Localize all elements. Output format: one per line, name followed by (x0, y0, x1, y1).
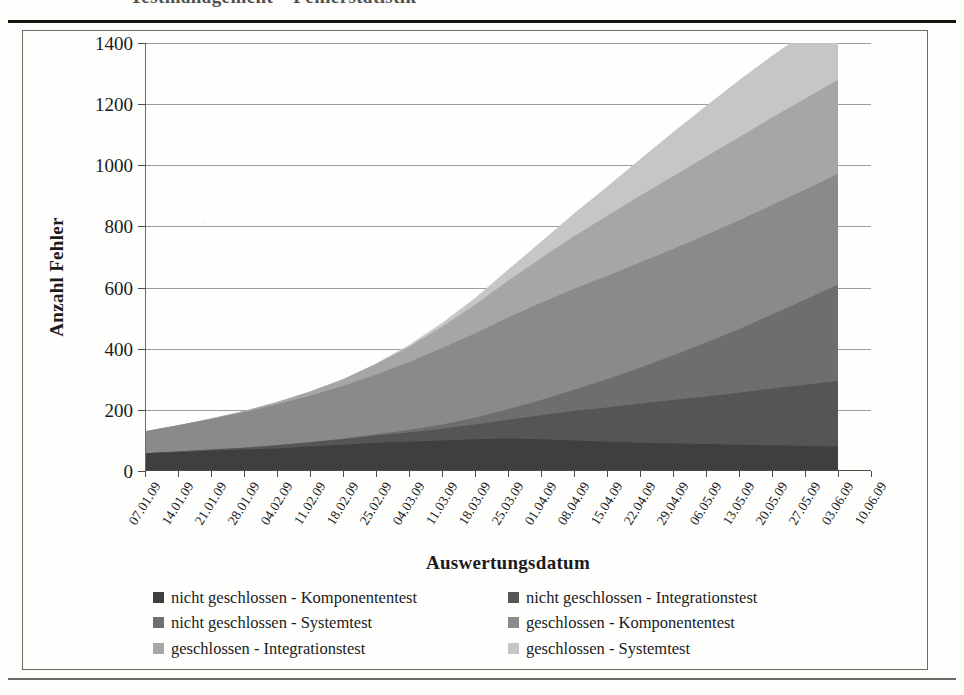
chart-container: Anzahl Fehler 0200400600800100012001400 … (23, 31, 929, 671)
x-axis-tick (145, 471, 146, 477)
legend-label: nicht geschlossen - Integrationstest (526, 589, 757, 606)
legend-item[interactable]: geschlossen - Integrationstest (153, 640, 508, 657)
stacked-area-series (145, 43, 871, 471)
y-axis-tick-label: 1200 (13, 95, 133, 114)
x-axis-tick (772, 471, 773, 477)
x-axis-tick (277, 471, 278, 477)
x-axis-tick (607, 471, 608, 477)
y-axis-line (145, 43, 146, 471)
legend-label: geschlossen - Integrationstest (171, 640, 365, 657)
y-axis-tick-label: 200 (13, 400, 133, 419)
chart-legend: nicht geschlossen - Komponententestnicht… (153, 589, 853, 657)
clipped-page-heading: Testmanagement – Fehlerstatistik (130, 0, 550, 8)
y-axis-tick (138, 165, 146, 166)
x-axis-tick (409, 471, 410, 477)
y-axis-tick-label: 1400 (13, 34, 133, 53)
y-axis-tick (138, 226, 146, 227)
x-axis-tick (310, 471, 311, 477)
legend-swatch (508, 592, 519, 603)
x-axis-tick (805, 471, 806, 477)
x-axis-tick (574, 471, 575, 477)
x-axis-tick (706, 471, 707, 477)
x-axis-tick (244, 471, 245, 477)
legend-label: nicht geschlossen - Komponententest (171, 589, 417, 606)
x-axis-tick (475, 471, 476, 477)
y-axis-tick-label: 0 (13, 462, 133, 481)
x-axis-tick (541, 471, 542, 477)
legend-item[interactable]: geschlossen - Systemtest (508, 640, 853, 657)
y-axis-tick-label: 800 (13, 217, 133, 236)
x-axis-tick (640, 471, 641, 477)
plot-area: 0200400600800100012001400 07.01.0914.01.… (145, 43, 871, 471)
x-axis-tick (343, 471, 344, 477)
x-axis-tick (508, 471, 509, 477)
x-axis-tick (673, 471, 674, 477)
y-axis-tick (138, 43, 146, 44)
legend-label: geschlossen - Komponententest (526, 614, 735, 631)
x-axis-tick (178, 471, 179, 477)
y-axis-tick (138, 410, 146, 411)
legend-swatch (153, 617, 164, 628)
figure-frame: Anzahl Fehler 0200400600800100012001400 … (22, 30, 928, 670)
legend-swatch (153, 643, 164, 654)
x-axis-tick-label: 07.01.09 (126, 479, 165, 528)
legend-label: nicht geschlossen - Systemtest (171, 614, 372, 631)
y-axis-tick-label: 400 (13, 339, 133, 358)
legend-swatch (153, 592, 164, 603)
x-axis-tick (739, 471, 740, 477)
legend-item[interactable]: geschlossen - Komponententest (508, 614, 853, 631)
legend-label: geschlossen - Systemtest (526, 640, 690, 657)
x-axis-tick (871, 471, 872, 477)
y-axis-tick (138, 104, 146, 105)
bottom-rule-divider (8, 678, 956, 680)
x-axis-tick (442, 471, 443, 477)
legend-swatch (508, 617, 519, 628)
legend-item[interactable]: nicht geschlossen - Komponententest (153, 589, 508, 606)
legend-item[interactable]: nicht geschlossen - Integrationstest (508, 589, 853, 606)
y-axis-tick (138, 288, 146, 289)
top-rule-divider (8, 20, 956, 23)
y-axis-tick-label: 1000 (13, 156, 133, 175)
legend-swatch (508, 643, 519, 654)
y-axis-tick (138, 349, 146, 350)
x-axis-title: Auswertungsdatum (145, 552, 871, 574)
x-axis-tick (838, 471, 839, 477)
legend-item[interactable]: nicht geschlossen - Systemtest (153, 614, 508, 631)
x-axis-tick (211, 471, 212, 477)
x-axis-tick (376, 471, 377, 477)
y-axis-tick-label: 600 (13, 278, 133, 297)
